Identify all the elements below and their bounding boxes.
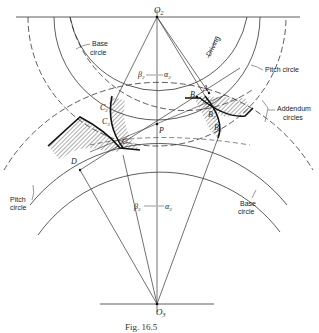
o3-to-c-line [123, 155, 157, 304]
label-c: C [122, 137, 128, 146]
o3-to-d-line [80, 170, 157, 304]
label-driving: Driving [205, 35, 222, 58]
o2-to-a-line [157, 17, 209, 93]
pitch-circle-bottom-leader [32, 185, 34, 200]
label-c2-prime: C2 [100, 103, 108, 113]
point-a [208, 92, 210, 94]
label-base-circle-bottom: Base [240, 200, 256, 207]
label-pitch-circle-bottom-2: circle [10, 204, 26, 211]
pitch-circle-top-leader [251, 65, 263, 70]
label-c3-prime: C3 [102, 117, 110, 127]
o3-to-b-line [157, 138, 218, 304]
point-o2 [156, 16, 159, 19]
label-pitch-circle-bottom: Pitch [10, 196, 26, 203]
label-alpha3: α3 [165, 202, 172, 212]
label-beta3: β3 [133, 202, 141, 212]
label-o2: O2 [154, 5, 164, 16]
label-addendum-circles: Addendum [277, 105, 311, 112]
label-base-circle-top-2: circle [90, 49, 106, 56]
base-circle-bottom-leader [252, 190, 256, 198]
o2-to-c-line [113, 17, 157, 105]
label-beta2: β2 [137, 70, 145, 80]
label-p: P [158, 126, 164, 135]
label-base-circle-top: Base [92, 40, 108, 47]
label-d: D [70, 157, 77, 166]
label-o3: O3 [156, 307, 166, 318]
figure-caption: Fig. 16.5 [125, 322, 158, 332]
label-addendum-circles-2: circles [283, 114, 303, 121]
label-b: B [190, 90, 195, 99]
point-d [79, 169, 81, 171]
label-a: A [202, 84, 208, 93]
point-p [156, 123, 159, 126]
base-circle-top-leader [76, 44, 90, 49]
label-pitch-circle-top: Pitch circle [265, 66, 299, 73]
point-o3 [156, 303, 159, 306]
point-b [196, 96, 198, 98]
label-b3-prime: B3 [214, 123, 222, 133]
gear-tooth-action-diagram: O2 O3 P A B B2 B3 C C2 C3 D β2 α2 β3 α3 … [0, 0, 319, 333]
upper-pitch-circle-outer [70, 17, 252, 111]
label-alpha2: α2 [164, 70, 171, 80]
label-base-circle-bottom-2: circle [238, 208, 254, 215]
addendum-brace [262, 100, 275, 122]
